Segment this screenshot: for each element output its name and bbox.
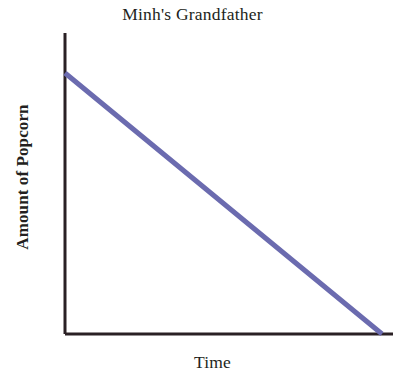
chart-figure: Minh's Grandfather Amount of Popcorn Tim… — [0, 0, 393, 381]
data-line-amount-of-popcorn — [65, 73, 382, 334]
plot-area — [0, 0, 393, 381]
